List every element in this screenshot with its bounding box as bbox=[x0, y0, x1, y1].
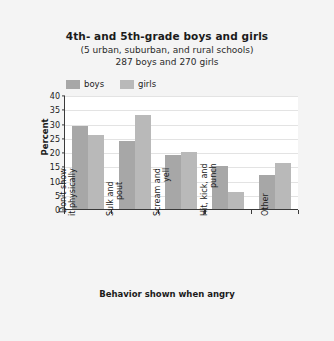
x-label-line: Scream and bbox=[152, 168, 162, 216]
chart-title: 4th- and 5th-grade boys and girls bbox=[0, 30, 334, 43]
legend-label-boys: boys bbox=[84, 79, 104, 89]
legend-swatch-girls-icon bbox=[120, 80, 134, 89]
x-label-cell: Don't showit physically bbox=[64, 216, 111, 284]
chart-subtitle-sample-size: 287 boys and 270 girls bbox=[0, 56, 334, 68]
legend-swatch-boys-icon bbox=[66, 80, 80, 89]
x-axis-labels: Don't showit physicallySulk andpoutScrea… bbox=[64, 216, 298, 284]
y-axis-title: Percent bbox=[40, 118, 50, 155]
x-axis-category-label: Scream andyell bbox=[152, 168, 171, 216]
legend-label-girls: girls bbox=[138, 79, 156, 89]
x-tick-mark bbox=[298, 210, 299, 214]
x-label-line: Hit, kick, and bbox=[199, 164, 209, 216]
legend-item-boys: boys bbox=[66, 79, 104, 89]
x-label-cell: Scream andyell bbox=[158, 216, 205, 284]
chart-legend: boys girls bbox=[66, 79, 156, 89]
bar-girls bbox=[135, 115, 151, 209]
x-axis-category-label: Hit, kick, andpunch bbox=[199, 164, 218, 216]
x-label-line: Sulk and bbox=[106, 181, 116, 216]
chart-figure: 4th- and 5th-grade boys and girls (5 urb… bbox=[0, 0, 334, 341]
y-tick-label: 20 bbox=[50, 149, 60, 158]
chart-subtitle: (5 urban, suburban, and rural schools) bbox=[0, 44, 334, 56]
x-label-line: yell bbox=[162, 168, 172, 216]
title-block: 4th- and 5th-grade boys and girls (5 urb… bbox=[0, 30, 334, 68]
bar-group bbox=[251, 96, 298, 209]
bar-girls bbox=[88, 135, 104, 209]
x-label-line: pout bbox=[115, 181, 125, 216]
x-label-cell: Hit, kick, andpunch bbox=[204, 216, 251, 284]
x-label-cell: Other bbox=[251, 216, 298, 284]
x-axis-category-label: Other bbox=[260, 193, 270, 216]
x-label-cell: Sulk andpout bbox=[111, 216, 158, 284]
bar-girls bbox=[228, 192, 244, 209]
x-label-line: punch bbox=[209, 164, 219, 216]
y-tick-label: 30 bbox=[50, 120, 60, 129]
x-axis-category-label: Sulk andpout bbox=[106, 181, 125, 216]
x-label-line: Don't show bbox=[59, 168, 69, 216]
x-tick-mark bbox=[251, 210, 252, 214]
bar-girls bbox=[275, 163, 291, 209]
legend-item-girls: girls bbox=[120, 79, 156, 89]
y-tick-label: 35 bbox=[50, 106, 60, 115]
y-tick-label: 40 bbox=[50, 92, 60, 101]
x-axis-title: Behavior shown when angry bbox=[0, 289, 334, 299]
x-label-line: Other bbox=[260, 193, 270, 216]
y-tick-label: 25 bbox=[50, 134, 60, 143]
x-label-line: it physically bbox=[68, 168, 78, 216]
bar-girls bbox=[181, 152, 197, 209]
x-axis-category-label: Don't showit physically bbox=[59, 168, 78, 216]
